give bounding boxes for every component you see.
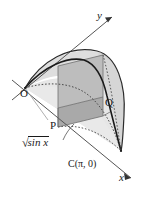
y-axis-label: y	[97, 10, 102, 21]
sqrt-expression: √sin x	[22, 136, 49, 149]
point-p-label: P	[50, 120, 56, 131]
math-figure: y x O P Q C(π, 0) √sin x	[0, 0, 142, 199]
point-c-label: C(π, 0)	[68, 159, 96, 169]
origin-label: O	[20, 88, 28, 99]
point-q-label: Q	[105, 97, 113, 108]
sqrt-sin-x-label: √sin x	[22, 136, 49, 149]
radicand: sin x	[28, 136, 49, 148]
point-c-dot	[120, 150, 122, 152]
diagram-canvas	[0, 0, 142, 199]
x-axis-label: x	[119, 172, 124, 183]
